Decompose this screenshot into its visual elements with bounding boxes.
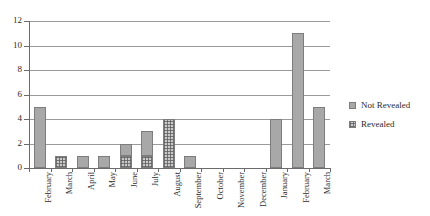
plot-area xyxy=(29,21,330,168)
x-tick-label: February xyxy=(302,172,311,216)
x-tick-label: September xyxy=(194,172,203,216)
bar-column xyxy=(270,119,282,168)
chart-legend: Not RevealedRevealed xyxy=(349,100,429,138)
bar-column xyxy=(292,33,304,168)
bar-column xyxy=(34,107,46,168)
bar-segment-not-revealed xyxy=(77,156,89,168)
bar-segment-not-revealed xyxy=(313,107,325,168)
legend-swatch-icon xyxy=(349,121,356,128)
bar-column xyxy=(141,131,153,168)
y-tick-label: 2 xyxy=(0,139,22,148)
y-tick-label: 0 xyxy=(0,163,22,172)
x-tick-label: July xyxy=(151,172,160,216)
legend-item: Not Revealed xyxy=(349,100,429,110)
bar-column xyxy=(163,119,175,168)
bar-chart: 024681012 FebruaryMarchAprilMayJuneJulyA… xyxy=(0,0,430,216)
x-tick-label: December xyxy=(259,172,268,216)
bar-segment-not-revealed xyxy=(292,33,304,168)
x-tick-label: March xyxy=(323,172,332,216)
y-tick-label: 12 xyxy=(0,16,22,25)
x-tick-label: June xyxy=(130,172,139,216)
x-tick-label: August xyxy=(173,172,182,216)
y-tick-label: 8 xyxy=(0,65,22,74)
bar-segment-not-revealed xyxy=(270,119,282,168)
legend-item: Revealed xyxy=(349,119,429,129)
x-tick-label: January xyxy=(280,172,289,216)
legend-swatch-icon xyxy=(349,102,356,109)
x-tick-label: November xyxy=(237,172,246,216)
legend-label: Not Revealed xyxy=(361,100,410,110)
x-tick-label: May xyxy=(108,172,117,216)
bar-segment-revealed xyxy=(120,156,132,168)
x-tick-label: April xyxy=(87,172,96,216)
x-tick-mark xyxy=(29,168,30,172)
bar-segment-not-revealed xyxy=(120,144,132,156)
bar-column xyxy=(120,144,132,169)
y-tick-label: 10 xyxy=(0,41,22,50)
bar-column xyxy=(98,156,110,168)
y-tick-label: 6 xyxy=(0,90,22,99)
bar-segment-not-revealed xyxy=(98,156,110,168)
x-tick-label: October xyxy=(216,172,225,216)
bar-segment-not-revealed xyxy=(34,107,46,168)
bar-segment-not-revealed xyxy=(184,156,196,168)
bar-column xyxy=(184,156,196,168)
x-tick-label: February xyxy=(44,172,53,216)
legend-label: Revealed xyxy=(361,119,394,129)
bar-segment-revealed xyxy=(55,156,67,168)
bar-segment-not-revealed xyxy=(141,131,153,156)
bar-column xyxy=(77,156,89,168)
bar-segment-revealed xyxy=(141,156,153,168)
bar-column xyxy=(55,156,67,168)
y-tick-label: 4 xyxy=(0,114,22,123)
bar-column xyxy=(313,107,325,168)
x-tick-label: March xyxy=(65,172,74,216)
bar-segment-revealed xyxy=(163,119,175,168)
